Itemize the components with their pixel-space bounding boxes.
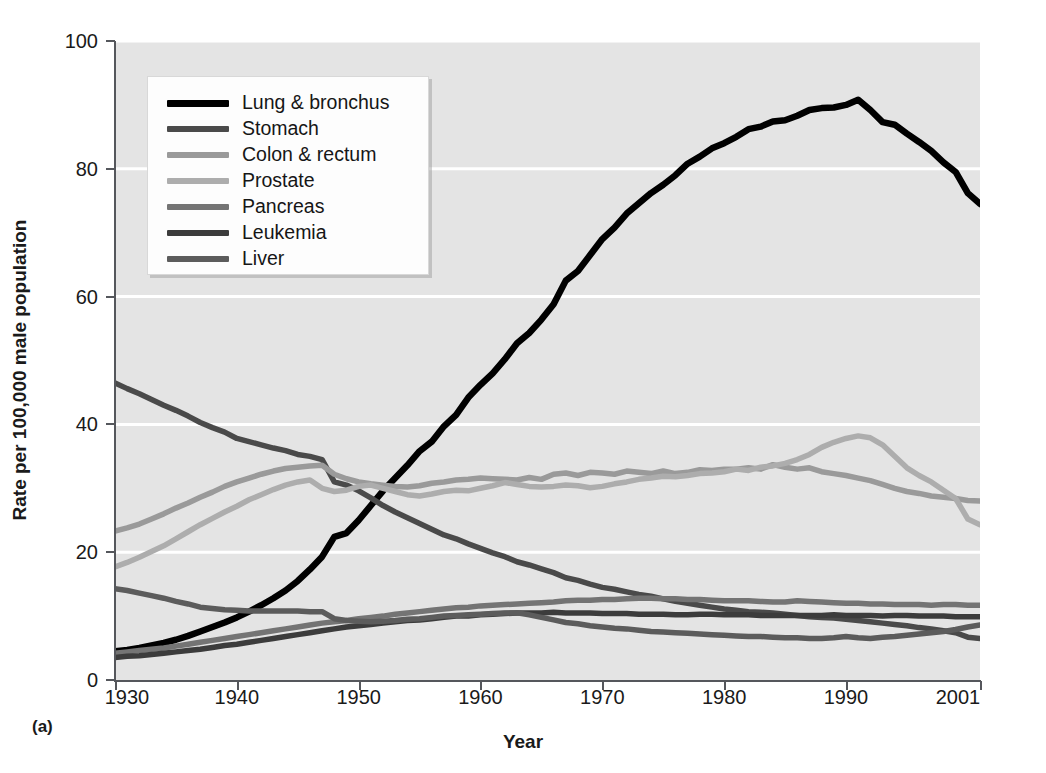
legend-item: Colon & rectum xyxy=(148,142,428,168)
x-tick-mark xyxy=(115,681,117,690)
legend-item: Leukemia xyxy=(148,220,428,246)
legend-item: Liver xyxy=(148,246,428,272)
y-tick-mark xyxy=(106,551,115,553)
legend-label: Pancreas xyxy=(242,197,324,217)
legend-swatch xyxy=(167,178,229,184)
legend-item: Lung & bronchus xyxy=(148,90,428,116)
x-tick-mark xyxy=(846,681,848,690)
y-tick-mark xyxy=(106,423,115,425)
legend-item: Pancreas xyxy=(148,194,428,220)
y-axis-title: Rate per 100,000 male population xyxy=(9,220,31,521)
x-axis-title: Year xyxy=(0,731,1046,753)
legend-item: Prostate xyxy=(148,168,428,194)
x-axis-line xyxy=(114,680,981,682)
x-tick-mark xyxy=(602,681,604,690)
legend-label: Colon & rectum xyxy=(242,145,376,165)
panel-label: (a) xyxy=(32,717,53,737)
y-tick-label: 20 xyxy=(76,541,98,564)
y-tick-mark xyxy=(106,168,115,170)
x-tick-mark xyxy=(359,681,361,690)
y-tick-label: 0 xyxy=(87,669,98,692)
legend-swatch xyxy=(167,256,229,262)
figure-chart: Rate per 100,000 male population 0204060… xyxy=(0,0,1046,773)
legend-swatch xyxy=(167,126,229,132)
legend-label: Leukemia xyxy=(242,223,327,243)
legend-swatch xyxy=(167,230,229,236)
legend-label: Liver xyxy=(242,249,284,269)
legend-swatch xyxy=(167,100,229,107)
legend: Lung & bronchusStomachColon & rectumPros… xyxy=(147,76,429,275)
x-tick-mark xyxy=(237,681,239,690)
series-line-prostate xyxy=(115,436,980,567)
legend-label: Prostate xyxy=(242,171,315,191)
x-tick-mark xyxy=(724,681,726,690)
y-tick-mark xyxy=(106,679,115,681)
legend-label: Lung & bronchus xyxy=(242,93,389,113)
x-tick-mark xyxy=(980,681,982,690)
y-tick-label: 40 xyxy=(76,413,98,436)
x-tick-label: 2001 xyxy=(936,686,981,709)
y-axis-line xyxy=(114,41,116,681)
legend-item: Stomach xyxy=(148,116,428,142)
y-tick-label: 100 xyxy=(65,30,98,53)
x-tick-label: 1930 xyxy=(105,686,150,709)
legend-swatch xyxy=(167,204,229,210)
legend-label: Stomach xyxy=(242,119,319,139)
x-tick-mark xyxy=(480,681,482,690)
y-tick-label: 60 xyxy=(76,285,98,308)
y-tick-label: 80 xyxy=(76,157,98,180)
series-line-colon-rectum xyxy=(115,465,980,531)
y-tick-mark xyxy=(106,40,115,42)
y-tick-mark xyxy=(106,296,115,298)
legend-swatch xyxy=(167,152,229,158)
